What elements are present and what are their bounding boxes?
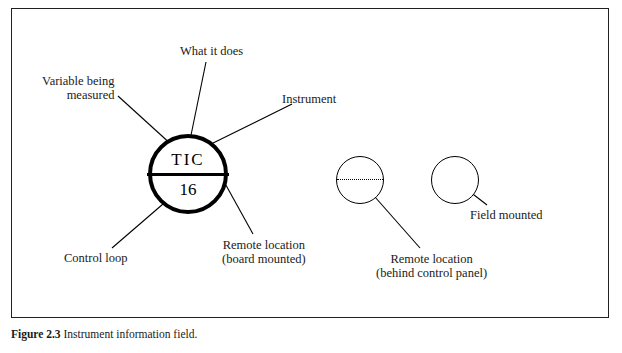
field-mounted-bubble [431, 156, 479, 204]
label-remote-line1: Remote location [222, 238, 306, 252]
figure-frame [11, 8, 609, 318]
label-what-it-does: What it does [180, 44, 243, 58]
label-behind-line2: (behind control panel) [376, 266, 487, 280]
behind-panel-bubble-dotted-divider [337, 179, 383, 180]
label-variable-line1: Variable being [42, 74, 115, 88]
figure-page: TIC 16 What it does Variable being measu… [0, 0, 622, 353]
instrument-bubble-divider [147, 173, 229, 176]
label-behind-line1: Remote location [376, 252, 487, 266]
label-remote-board-mounted: Remote location (board mounted) [222, 238, 306, 266]
label-variable-line2: measured [42, 88, 115, 102]
label-remote-behind-panel: Remote location (behind control panel) [376, 252, 487, 280]
instrument-loop-number: 16 [148, 180, 228, 200]
figure-caption: Figure 2.3 Instrument information field. [11, 328, 611, 340]
label-control-loop: Control loop [64, 251, 128, 265]
label-instrument: Instrument [282, 92, 336, 106]
behind-panel-bubble [336, 156, 384, 204]
label-variable-being-measured: Variable being measured [42, 74, 115, 102]
figure-caption-text: Instrument information field. [61, 328, 198, 340]
label-remote-line2: (board mounted) [222, 252, 306, 266]
label-field-mounted: Field mounted [470, 208, 543, 222]
instrument-tag-letters: TIC [148, 150, 228, 170]
figure-caption-number: Figure 2.3 [11, 328, 61, 340]
